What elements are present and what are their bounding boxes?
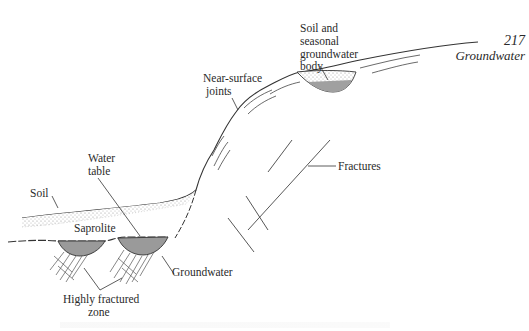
- label-fractured-zone-2: zone: [88, 306, 110, 318]
- label-water-table-2: table: [88, 165, 110, 177]
- label-fractures: Fractures: [338, 160, 381, 172]
- groundwater-cross-section-diagram: Soil and seasonal groundwater body Near-…: [0, 0, 529, 331]
- label-soil-seasonal-1: Soil and: [300, 22, 338, 34]
- label-soil: Soil: [30, 187, 49, 199]
- label-near-surface-1: Near-surface: [203, 72, 262, 84]
- label-water-table-1: Water: [88, 152, 115, 164]
- label-soil-seasonal-4: body: [300, 60, 323, 73]
- label-near-surface-2: joints: [205, 85, 232, 98]
- terrain-surface: [22, 42, 478, 218]
- faint-caption-bleedthrough: [60, 322, 390, 328]
- leader-lines: [52, 66, 336, 290]
- deep-fractures: [228, 140, 330, 252]
- fractured-zone-hatching: [50, 250, 154, 284]
- groundwater-lens-right: [118, 237, 168, 255]
- label-groundwater: Groundwater: [172, 266, 233, 278]
- groundwater-lens-left: [58, 241, 105, 256]
- label-saprolite: Saprolite: [74, 222, 116, 235]
- label-fractured-zone-1: Highly fractured: [63, 293, 140, 306]
- label-soil-seasonal-2: seasonal: [300, 35, 339, 47]
